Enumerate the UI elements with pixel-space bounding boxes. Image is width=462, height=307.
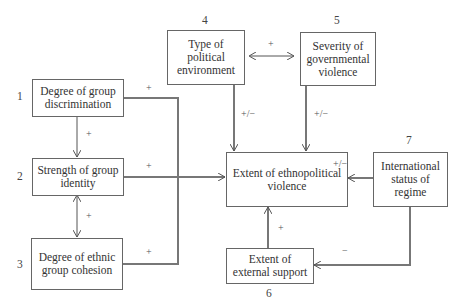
edge-sign-2-3: + bbox=[86, 210, 92, 221]
node-label: Strength of group identity bbox=[35, 164, 121, 190]
node-label: Extent of ethnopolitical violence bbox=[229, 167, 345, 193]
node-group-discrimination: Degree of group discrimination bbox=[32, 79, 124, 117]
edge-sign-2-center: + bbox=[146, 160, 152, 171]
edge-sign-6-center: + bbox=[278, 222, 284, 233]
edge-sign-7-6: − bbox=[342, 245, 348, 256]
edge-sign-1-center: + bbox=[146, 82, 152, 93]
node-label: Degree of group discrimination bbox=[35, 85, 121, 111]
node-number-1: 1 bbox=[17, 90, 23, 102]
node-international-status: International status of regime bbox=[373, 152, 448, 207]
node-number-5: 5 bbox=[334, 14, 340, 26]
node-number-2: 2 bbox=[17, 170, 23, 182]
node-label: Severity of governmental violence bbox=[303, 40, 373, 79]
node-number-7: 7 bbox=[406, 134, 412, 146]
node-governmental-violence: Severity of governmental violence bbox=[300, 32, 376, 86]
node-group-identity: Strength of group identity bbox=[32, 158, 124, 196]
node-number-3: 3 bbox=[17, 258, 23, 270]
edge-sign-1-2: + bbox=[86, 128, 92, 139]
node-political-environment: Type of political environment bbox=[167, 30, 245, 85]
edge-sign-7-center: +/− bbox=[333, 158, 347, 169]
node-label: Degree of ethnic group cohesion bbox=[34, 251, 120, 277]
node-label: International status of regime bbox=[376, 160, 445, 199]
edge-sign-3-center: + bbox=[146, 246, 152, 257]
node-label: Extent of external support bbox=[229, 253, 311, 279]
edge-sign-4-center: +/− bbox=[241, 108, 255, 119]
node-number-4: 4 bbox=[202, 14, 208, 26]
node-number-6: 6 bbox=[266, 287, 272, 299]
node-external-support: Extent of external support bbox=[226, 248, 314, 284]
node-label: Type of political environment bbox=[170, 38, 242, 77]
edge-sign-4-5: + bbox=[268, 38, 274, 49]
edge-sign-5-center: +/− bbox=[314, 108, 328, 119]
node-ethnic-group-cohesion: Degree of ethnic group cohesion bbox=[31, 238, 123, 290]
node-ethnopolitical-violence: Extent of ethnopolitical violence bbox=[226, 152, 348, 207]
